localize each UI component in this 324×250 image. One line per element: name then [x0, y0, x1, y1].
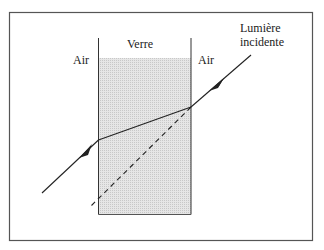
incident-light-label-line1: Lumière [240, 21, 281, 35]
refraction-diagram: Verre Air Air Lumière incidente [0, 0, 324, 250]
glass-slab [99, 58, 192, 214]
air-left-label: Air [73, 53, 89, 67]
glass-label: Verre [127, 37, 153, 51]
incident-light-label-line2: incidente [240, 35, 284, 49]
air-right-label: Air [198, 53, 214, 67]
